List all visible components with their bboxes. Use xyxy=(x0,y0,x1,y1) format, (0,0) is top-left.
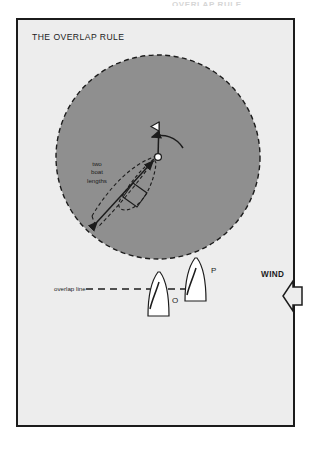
two-boat-lengths-line-2: boat xyxy=(80,168,114,176)
diagram-canvas xyxy=(0,0,317,453)
boat-o-hull xyxy=(148,272,169,316)
boat-p-label: P xyxy=(211,266,216,275)
mark-buoy-icon xyxy=(155,154,162,161)
two-boat-lengths-line-3: lengths xyxy=(80,177,114,185)
wind-label: WIND xyxy=(261,270,284,279)
figure-root: OVERLAP RULE THE OVERLAP RULE xyxy=(0,0,317,453)
overlap-line-label: overlap line xyxy=(54,285,86,292)
two-boat-lengths-label: two boat lengths xyxy=(80,160,114,185)
boat-p-hull xyxy=(185,258,206,301)
wind-arrow-icon xyxy=(283,281,302,311)
boat-o-label: O xyxy=(172,296,178,305)
two-boat-lengths-line-1: two xyxy=(80,160,114,168)
